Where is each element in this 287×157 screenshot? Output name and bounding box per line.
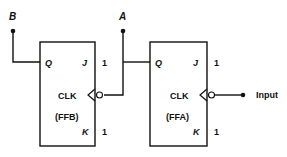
a-label: A (118, 11, 126, 22)
b-output-wire (13, 31, 40, 62)
ffa-q-label: Q (155, 58, 162, 68)
ffb-name: (FFB) (55, 112, 79, 122)
ffa-k-value: 1 (214, 127, 219, 137)
ffb-q-label: Q (45, 58, 52, 68)
ffa-clock-triangle-icon (200, 89, 207, 101)
ffa-clk-label: CLK (170, 91, 189, 101)
input-dot (241, 93, 246, 98)
ffb-j-label: J (82, 58, 88, 68)
ffa-name: (FFA) (166, 112, 189, 122)
ffa-k-label: K (193, 127, 201, 137)
input-label: Input (256, 90, 278, 100)
ffb-j-value: 1 (102, 58, 107, 68)
b-label: B (9, 11, 16, 22)
ffa-j-value: 1 (214, 58, 219, 68)
ffb-k-value: 1 (102, 127, 107, 137)
counter-diagram: B A Input Q J 1 CLK (FFB) K 1 Q J 1 CLK … (0, 0, 287, 157)
ffa-clock-bubble-icon (209, 92, 215, 98)
ffb-clock-triangle-icon (88, 89, 95, 101)
ffa-j-label: J (193, 58, 199, 68)
ffb-clock-bubble-icon (97, 92, 103, 98)
ffb-clk-label: CLK (58, 91, 77, 101)
ffb-k-label: K (82, 127, 90, 137)
